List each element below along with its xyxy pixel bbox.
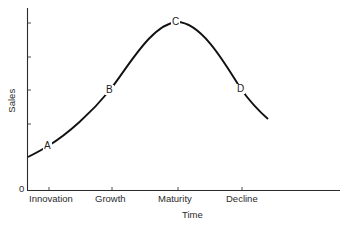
point-label-b: B bbox=[105, 85, 114, 95]
x-tick-maturity: Maturity bbox=[158, 194, 192, 204]
point-label-a: A bbox=[43, 141, 52, 151]
x-tick-decline: Decline bbox=[226, 194, 258, 204]
y-axis-label: Sales bbox=[7, 89, 17, 113]
point-label-c: C bbox=[171, 17, 180, 27]
origin-label: 0 bbox=[19, 184, 24, 194]
x-tick-growth: Growth bbox=[95, 194, 126, 204]
sales-curve bbox=[28, 22, 268, 157]
x-axis-label: Time bbox=[182, 210, 203, 220]
x-tick-innovation: Innovation bbox=[29, 194, 73, 204]
point-label-d: D bbox=[236, 84, 245, 94]
